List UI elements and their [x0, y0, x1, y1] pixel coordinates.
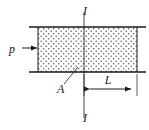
- section-label-bottom: I: [82, 111, 88, 125]
- hatched-section: [38, 27, 137, 72]
- area-label: A: [56, 82, 65, 96]
- diagram-canvas: p A L I I: [0, 0, 149, 130]
- length-label: L: [104, 73, 112, 87]
- pressure-label: p: [8, 42, 15, 56]
- figure-root: p A L I I: [0, 0, 149, 130]
- section-label-top: I: [82, 4, 88, 18]
